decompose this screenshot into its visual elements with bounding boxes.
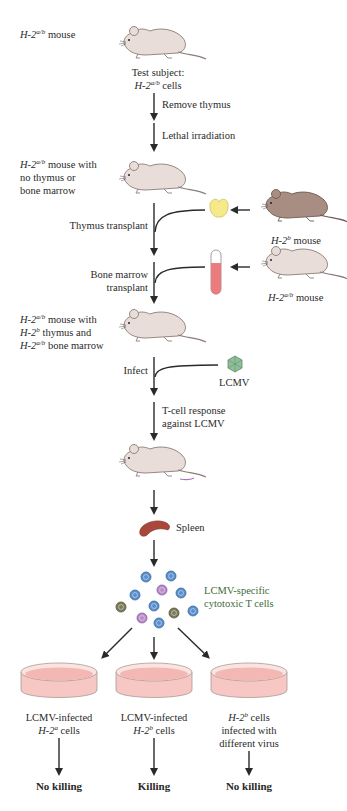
result-1: No killing <box>9 780 109 793</box>
t-cells-label: LCMV-specific cytotoxic T cells <box>204 584 274 610</box>
donor-marrow-mouse-illustration <box>261 247 347 280</box>
result-2: Killing <box>104 780 204 793</box>
t-cells-cluster <box>116 571 198 628</box>
remove-thymus-label: Remove thymus <box>162 98 231 111</box>
infect-label: Infect <box>90 364 148 377</box>
irradiated-mouse-illustration <box>119 162 206 195</box>
dish-1-label: LCMV-infected H-2a cells <box>9 711 109 737</box>
infected-mouse-illustration <box>119 445 206 478</box>
no-thymus-mouse-label: H-2a/b mouse with no thymus or bone marr… <box>20 158 97 197</box>
dish-3 <box>211 663 287 698</box>
start-mouse-label: H-2a/b mouse <box>20 28 75 41</box>
test-subject-label: Test subject: H-2a/b cells <box>118 66 198 92</box>
thymus-transplant-label: Thymus transplant <box>40 219 148 232</box>
reconstituted-mouse-illustration <box>119 310 206 343</box>
donor-thymus-mouse-label: H-2b mouse <box>271 234 321 247</box>
spleen-label: Spleen <box>176 521 205 534</box>
lcmv-virus-icon <box>228 356 242 372</box>
thymus-icon <box>210 199 228 217</box>
dish-2-label: LCMV-infected H-2b cells <box>104 711 204 737</box>
dish-1 <box>21 663 97 698</box>
spleen-icon <box>140 521 170 536</box>
reconstituted-mouse-label: H-2a/b mouse with H-2b thymus and H-2a/b… <box>20 313 104 352</box>
bone-marrow-tube-icon <box>211 250 221 294</box>
donor-marrow-mouse-label: H-2a/b mouse <box>268 291 323 304</box>
lcmv-label: LCMV <box>219 376 249 389</box>
donor-thymus-mouse-illustration <box>261 190 347 223</box>
dish-2 <box>116 663 192 698</box>
result-3: No killing <box>199 780 299 793</box>
t-cell-response-label: T-cell response against LCMV <box>162 404 225 430</box>
bone-marrow-transplant-label: Bone marrow transplant <box>40 268 148 294</box>
dish-3-label: H-2b cells infected with different virus <box>199 711 299 750</box>
start-mouse-illustration <box>119 27 206 60</box>
lethal-irradiation-label: Lethal irradiation <box>162 129 235 142</box>
